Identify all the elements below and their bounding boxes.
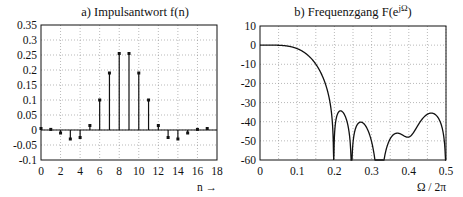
stem-marker bbox=[108, 72, 111, 75]
stem-marker bbox=[128, 52, 131, 55]
chart-title-b: b) Frequenzgang F(ejΩ) bbox=[294, 3, 412, 19]
svg-text:-40: -40 bbox=[241, 116, 257, 128]
svg-text:0.25: 0.25 bbox=[17, 49, 37, 61]
svg-text:0.35: 0.35 bbox=[17, 19, 37, 31]
svg-text:0.1: 0.1 bbox=[290, 165, 305, 177]
svg-text:0.5: 0.5 bbox=[439, 165, 454, 177]
svg-text:0.15: 0.15 bbox=[17, 79, 37, 91]
svg-text:-60: -60 bbox=[241, 154, 257, 166]
stem-marker bbox=[157, 124, 160, 127]
svg-text:-0.05: -0.05 bbox=[13, 139, 37, 151]
stem-marker bbox=[186, 132, 189, 135]
stem-marker bbox=[137, 72, 140, 75]
frequency-response-chart: 00.10.20.30.40.5100-10-20-30-40-50-60b) … bbox=[241, 3, 454, 193]
svg-text:-0.1: -0.1 bbox=[19, 154, 37, 166]
svg-text:4: 4 bbox=[77, 165, 83, 177]
svg-text:0: 0 bbox=[31, 124, 37, 136]
svg-text:0: 0 bbox=[257, 165, 263, 177]
svg-text:2: 2 bbox=[58, 165, 64, 177]
stem-marker bbox=[176, 138, 179, 141]
x-axis-label-a: n → bbox=[197, 181, 217, 193]
svg-text:0: 0 bbox=[250, 39, 256, 51]
svg-text:6: 6 bbox=[97, 165, 103, 177]
svg-text:10: 10 bbox=[245, 20, 257, 32]
svg-text:-20: -20 bbox=[241, 77, 257, 89]
svg-text:18: 18 bbox=[211, 165, 223, 177]
stem-marker bbox=[69, 138, 72, 141]
svg-text:10: 10 bbox=[133, 165, 145, 177]
impulse-response-chart: 0246810121416180.350.30.250.20.150.10.05… bbox=[13, 5, 223, 193]
stem-marker bbox=[88, 124, 91, 127]
svg-text:0.1: 0.1 bbox=[23, 94, 38, 106]
stem-marker bbox=[59, 132, 62, 135]
svg-text:0.3: 0.3 bbox=[364, 165, 379, 177]
svg-text:16: 16 bbox=[192, 165, 204, 177]
chart-title-a: a) Impulsantwort f(n) bbox=[81, 5, 189, 19]
svg-text:14: 14 bbox=[172, 165, 184, 177]
svg-text:-10: -10 bbox=[241, 58, 257, 70]
svg-text:8: 8 bbox=[116, 165, 122, 177]
svg-text:0: 0 bbox=[38, 165, 44, 177]
svg-text:0.4: 0.4 bbox=[402, 165, 417, 177]
svg-text:-50: -50 bbox=[241, 135, 257, 147]
svg-text:0.2: 0.2 bbox=[23, 64, 38, 76]
svg-text:0.2: 0.2 bbox=[327, 165, 342, 177]
svg-text:0.05: 0.05 bbox=[17, 109, 37, 121]
stem-marker bbox=[118, 52, 121, 55]
svg-text:-30: -30 bbox=[241, 97, 257, 109]
stem-marker bbox=[49, 128, 52, 131]
stem-marker bbox=[98, 99, 101, 102]
stem-marker bbox=[147, 99, 150, 102]
stem-marker bbox=[167, 136, 170, 139]
stem-marker bbox=[206, 127, 209, 130]
svg-text:0.3: 0.3 bbox=[23, 34, 38, 46]
chart-canvas: 0246810121416180.350.30.250.20.150.10.05… bbox=[0, 0, 463, 197]
stem-marker bbox=[40, 127, 43, 130]
stem-marker bbox=[79, 136, 82, 139]
x-axis-label-b: Ω / 2π bbox=[417, 181, 446, 193]
svg-text:12: 12 bbox=[153, 165, 165, 177]
stem-marker bbox=[196, 128, 199, 131]
